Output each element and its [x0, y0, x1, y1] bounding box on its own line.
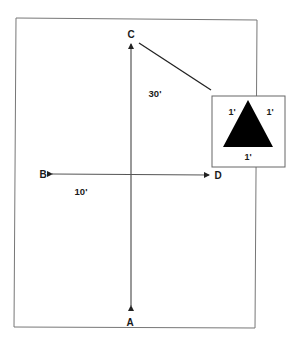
point-label-c: C — [127, 29, 134, 40]
dimension-vertical: 30' — [149, 88, 162, 99]
dimension-horizontal: 10' — [75, 186, 88, 197]
horizontal-arrow-b-to-d — [52, 174, 209, 175]
point-label-d: D — [214, 170, 221, 181]
diagram-canvas: C A B D 30' 10' 1' 1' 1' — [0, 0, 299, 344]
triangle-side-bottom-label: 1' — [244, 152, 251, 162]
point-label-b: B — [39, 169, 46, 180]
triangle-side-right-label: 1' — [266, 107, 273, 117]
triangle-side-left-label: 1' — [228, 107, 235, 117]
point-label-a: A — [126, 317, 133, 328]
callout-line — [139, 43, 211, 90]
